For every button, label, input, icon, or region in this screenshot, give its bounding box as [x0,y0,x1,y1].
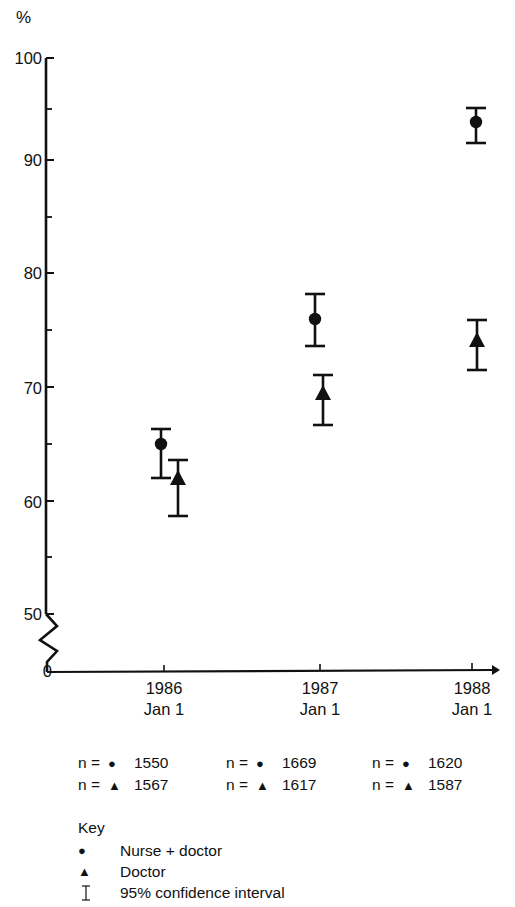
datapoint-1986-doctor [168,460,188,516]
circle-marker-icon [309,313,321,325]
circle-marker-icon [470,116,482,128]
y-axis [40,58,57,672]
datapoint-1986-nurse-doctor [151,429,171,478]
axis-break-zigzag [40,614,57,672]
datapoint-1987-nurse-doctor [305,294,325,346]
x-axis-arrowhead [492,665,500,675]
circle-marker-icon [155,438,167,450]
triangle-marker-icon [315,385,331,400]
datapoint-1988-doctor [467,320,487,370]
plot-area [0,0,515,907]
chart-figure: % 100 90 80 70 60 50 0 1986 Jan 1 1987 J… [0,0,515,907]
x-axis [47,663,500,675]
datapoint-1987-doctor [313,375,333,425]
datapoint-1988-nurse-doctor [466,108,486,143]
triangle-marker-icon [469,332,485,347]
triangle-marker-icon [170,470,186,485]
